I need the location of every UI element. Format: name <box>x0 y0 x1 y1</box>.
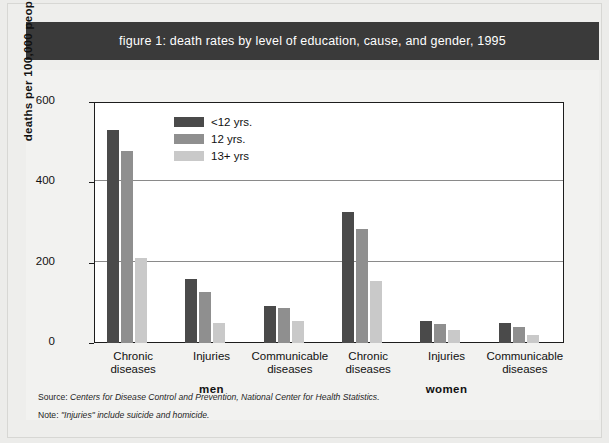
legend-item: 13+ yrs <box>174 148 252 163</box>
bar <box>527 335 539 343</box>
bar <box>135 258 147 343</box>
y-tick-mark-0 <box>89 343 94 344</box>
bar <box>513 327 525 343</box>
bar <box>342 212 354 343</box>
bar <box>420 321 432 343</box>
legend-swatch-icon <box>174 134 204 144</box>
page-title: figure 1: death rates by level of educat… <box>119 34 506 48</box>
note-label: Note: <box>38 410 59 420</box>
bar-group <box>407 102 485 343</box>
y-tick-label-200: 200 <box>9 255 55 267</box>
bar-series-layer <box>94 102 564 343</box>
y-tick-label-600: 600 <box>9 94 55 106</box>
bar-group <box>329 102 407 343</box>
note-text: "Injuries" include suicide and homicide. <box>61 410 209 420</box>
figure-title-banner: figure 1: death rates by level of educat… <box>26 22 599 60</box>
figure-page: figure 1: death rates by level of educat… <box>0 0 609 443</box>
legend-swatch-icon <box>174 117 204 127</box>
source-label: Source: <box>38 392 68 402</box>
x-category-label-line: Communicable <box>472 350 578 363</box>
x-category-label-line: diseases <box>80 363 186 376</box>
x-category-label-line: diseases <box>315 363 421 376</box>
bar <box>107 130 119 343</box>
y-axis-title: deaths per 100,000 people <box>22 0 34 166</box>
bar <box>448 330 460 343</box>
bar <box>499 323 511 343</box>
bar-group <box>94 102 172 343</box>
source-text: Centers for Disease Control and Preventi… <box>70 392 380 402</box>
bar <box>292 321 304 343</box>
bar <box>278 308 290 343</box>
bar <box>199 292 211 343</box>
x-category-label: Communicablediseases <box>472 350 578 376</box>
bar <box>213 323 225 343</box>
legend-swatch-icon <box>174 151 204 161</box>
bar <box>121 151 133 343</box>
legend-item: <12 yrs. <box>174 114 252 129</box>
chart-legend: <12 yrs.12 yrs.13+ yrs <box>174 114 252 165</box>
bar-group <box>251 102 329 343</box>
x-category-label-line: diseases <box>472 363 578 376</box>
bar <box>356 229 368 343</box>
bar-group <box>486 102 564 343</box>
y-tick-label-400: 400 <box>9 174 55 186</box>
y-tick-label-0: 0 <box>9 335 55 347</box>
page-sheet: figure 1: death rates by level of educat… <box>8 4 601 437</box>
legend-label: 13+ yrs <box>211 150 249 162</box>
legend-label: <12 yrs. <box>211 116 252 128</box>
chart-container: deaths per 100,000 people 0200400600 <12… <box>26 70 599 420</box>
bar <box>434 324 446 343</box>
note-footnote: Note: "Injuries" include suicide and hom… <box>38 410 209 420</box>
bar <box>185 279 197 343</box>
bar <box>370 281 382 343</box>
legend-item: 12 yrs. <box>174 131 252 146</box>
source-footnote: Source: Centers for Disease Control and … <box>38 392 380 402</box>
legend-label: 12 yrs. <box>211 133 246 145</box>
bar <box>264 306 276 343</box>
